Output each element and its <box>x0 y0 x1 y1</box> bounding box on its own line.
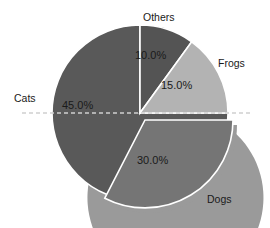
slice-percent-frogs: 15.0% <box>161 80 192 91</box>
slice-label-cats: Cats <box>14 93 36 104</box>
slice-label-others: Others <box>143 12 175 23</box>
slice-percent-others: 10.0% <box>135 50 166 61</box>
slice-percent-dogs: 30.0% <box>137 155 168 166</box>
slice-label-dogs: Dogs <box>207 194 232 205</box>
slice-label-frogs: Frogs <box>218 58 245 69</box>
slice-percent-cats: 45.0% <box>62 100 93 111</box>
pie-chart-figure: Others Frogs Dogs Cats 10.0% 15.0% 30.0%… <box>0 0 270 228</box>
